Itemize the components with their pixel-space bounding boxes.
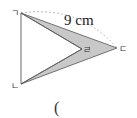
vertex-label-d: ㄹ: [83, 45, 91, 55]
side-b-d: [21, 49, 82, 84]
geometry-diagram: ㄱ ㄴ ㄷ ㄹ 9 cm (: [0, 0, 137, 118]
answer-bracket: (: [54, 99, 59, 117]
vertex-label-b: ㄴ: [11, 81, 19, 91]
vertex-label-a: ㄱ: [11, 8, 19, 18]
vertex-label-c: ㄷ: [119, 44, 127, 54]
length-label: 9 cm: [64, 12, 94, 28]
